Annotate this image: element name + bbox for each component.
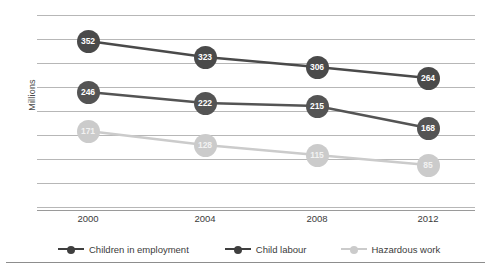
data-point-marker[interactable]: 168 [417, 117, 440, 140]
data-point-marker[interactable]: 115 [306, 144, 329, 167]
legend-label: Child labour [256, 244, 307, 255]
line-children-in-employment [88, 41, 428, 78]
line-hazardous-work [88, 131, 428, 165]
legend-marker-icon [225, 244, 251, 254]
x-tick-label: 2000 [58, 213, 118, 224]
legend-label: Children in employment [89, 244, 189, 255]
line-child-labour [88, 92, 428, 128]
legend-marker-icon [58, 244, 84, 254]
chart-container: Millions 352 323 306 264 246 222 215 168… [0, 0, 491, 272]
legend-marker-icon [341, 244, 367, 254]
data-point-marker[interactable]: 306 [306, 56, 329, 79]
data-point-marker[interactable]: 85 [417, 154, 440, 177]
x-tick-label: 2008 [287, 213, 347, 224]
data-point-marker[interactable]: 352 [77, 30, 100, 53]
x-tick-label: 2004 [175, 213, 235, 224]
data-point-marker[interactable]: 171 [77, 120, 100, 143]
data-point-marker[interactable]: 215 [306, 95, 329, 118]
data-point-marker[interactable]: 128 [194, 134, 217, 157]
x-axis-ticks: 2000 2004 2008 2012 [37, 213, 475, 233]
x-axis-line [37, 210, 475, 211]
legend-item-hazardous-work[interactable]: Hazardous work [341, 244, 441, 255]
chart-legend: Children in employment Child labour Haza… [0, 240, 491, 258]
legend-label: Hazardous work [372, 244, 441, 255]
data-point-marker[interactable]: 323 [194, 46, 217, 69]
data-point-marker[interactable]: 264 [417, 67, 440, 90]
bottom-divider [6, 262, 485, 263]
data-point-marker[interactable]: 246 [77, 81, 100, 104]
data-point-marker[interactable]: 222 [194, 92, 217, 115]
legend-item-children-in-employment[interactable]: Children in employment [58, 244, 189, 255]
legend-item-child-labour[interactable]: Child labour [225, 244, 307, 255]
x-tick-label: 2012 [398, 213, 458, 224]
